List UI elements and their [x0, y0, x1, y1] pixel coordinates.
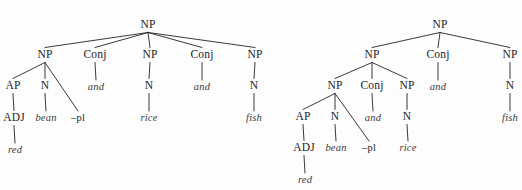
tree-node-l-pl: –pl — [71, 113, 85, 124]
tree-edge — [148, 33, 255, 48]
tree-node-r-and-a: and — [430, 82, 446, 93]
tree-edge — [303, 125, 304, 141]
tree-node-r-n2: N — [403, 111, 412, 123]
tree-node-r-red: red — [298, 175, 312, 186]
tree-edge — [45, 63, 78, 112]
tree-node-r-conj-a: Conj — [426, 49, 449, 61]
tree-node-r-rice: rice — [399, 143, 416, 154]
tree-edge — [407, 125, 408, 142]
tree-node-r-ap: AP — [295, 111, 310, 123]
tree-node-r-np-a: NP — [364, 49, 379, 61]
tree-edge — [335, 125, 336, 142]
tree-node-l-bean: bean — [35, 113, 56, 124]
tree-edge — [95, 33, 148, 48]
tree-edge — [148, 33, 150, 48]
tree-node-l-fish: fish — [246, 113, 262, 124]
tree-node-l-np1: NP — [37, 49, 52, 61]
tree-edge — [95, 63, 96, 81]
tree-node-l-np2: NP — [142, 49, 157, 61]
tree-node-r-n3: N — [506, 80, 515, 92]
tree-node-r-n1: N — [331, 111, 340, 123]
tree-node-l-red: red — [8, 145, 22, 156]
tree-node-r-conj1: Conj — [360, 80, 383, 92]
tree-node-l-and1: and — [88, 82, 104, 93]
tree-edge — [13, 63, 45, 79]
tree-node-l-conj1: Conj — [83, 49, 106, 61]
tree-edge — [148, 33, 202, 48]
tree-node-l-rice: rice — [140, 113, 157, 124]
tree-node-r-np-b: NP — [502, 49, 517, 61]
tree-node-l-conj2: Conj — [190, 49, 213, 61]
tree-edge — [372, 33, 440, 48]
tree-node-r-root: NP — [432, 19, 447, 31]
tree-edge — [254, 63, 255, 79]
tree-node-r-pl: –pl — [362, 143, 376, 154]
tree-edge — [304, 156, 305, 174]
tree-node-r-and1: and — [365, 113, 381, 124]
tree-edge — [372, 63, 407, 79]
tree-node-l-adj: ADJ — [3, 112, 25, 124]
tree-edge — [14, 126, 15, 144]
syntax-tree-figure: NPNPConjNPConjNPAPNandNandNADJbean–plric… — [0, 0, 522, 190]
tree-edge — [45, 94, 46, 112]
tree-node-l-root: NP — [140, 19, 155, 31]
tree-node-l-n2: N — [145, 80, 154, 92]
tree-node-r-bean: bean — [325, 143, 346, 154]
tree-node-r-np2: NP — [399, 80, 414, 92]
tree-node-r-np1: NP — [327, 80, 342, 92]
tree-node-r-adj: ADJ — [293, 142, 315, 154]
tree-edge — [45, 33, 148, 48]
tree-node-l-np3: NP — [247, 49, 262, 61]
tree-node-r-fish: fish — [502, 113, 518, 124]
tree-node-l-ap: AP — [5, 80, 20, 92]
tree-edge — [440, 33, 510, 48]
tree-edge — [372, 94, 373, 112]
tree-edge — [303, 94, 335, 110]
tree-node-l-n3: N — [250, 80, 259, 92]
tree-edge — [335, 63, 372, 79]
tree-edge — [438, 33, 440, 48]
tree-node-l-and2: and — [194, 82, 210, 93]
tree-node-l-n1: N — [41, 80, 50, 92]
tree-edge — [13, 94, 14, 111]
tree-edge — [149, 63, 150, 79]
